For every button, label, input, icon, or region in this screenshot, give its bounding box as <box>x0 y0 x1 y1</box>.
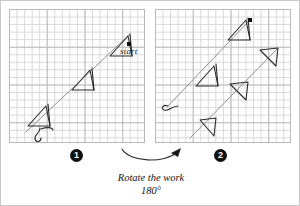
rotated-point-marker <box>248 18 252 22</box>
panel-1-grid: start <box>9 9 145 143</box>
curved-rotate-arrow-icon <box>119 146 185 164</box>
panel-1-drawing <box>10 10 145 143</box>
caption-line-2: 180° <box>1 185 300 198</box>
caption-line-1: Rotate the work <box>1 172 300 185</box>
figure-caption: Rotate the work 180° <box>1 172 300 197</box>
step-badge-1: 1 <box>70 149 83 162</box>
start-label: start <box>120 46 138 56</box>
panel-2-grid <box>155 9 291 143</box>
figure-rotate-the-work: start <box>0 0 300 206</box>
step-badge-2: 2 <box>214 149 227 162</box>
panel-2-drawing <box>156 10 291 143</box>
